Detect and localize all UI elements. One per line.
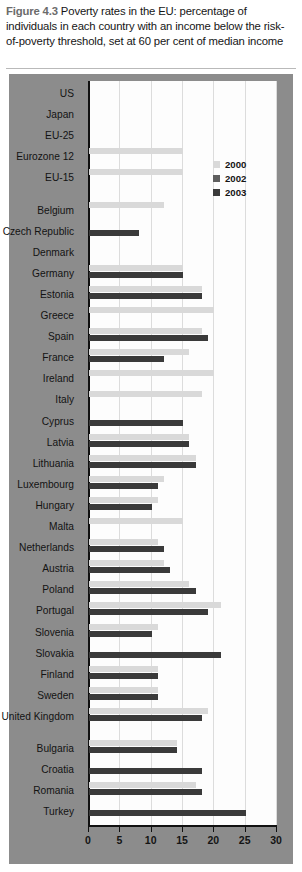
bar-2000	[89, 602, 221, 608]
bar-row: Germany	[9, 264, 293, 285]
legend-swatch-icon	[213, 175, 220, 182]
bar-2003	[89, 567, 170, 573]
bar-2000	[89, 476, 164, 482]
category-label: Sweden	[0, 690, 74, 701]
category-label: Latvia	[0, 437, 74, 448]
bar-row: Netherlands	[9, 538, 293, 559]
bar-2000	[89, 560, 164, 566]
bar-row: Austria	[9, 559, 293, 580]
category-label: Spain	[0, 331, 74, 342]
bar-2000	[89, 328, 202, 334]
category-label: Greece	[0, 310, 74, 321]
bar-row: Czech Republic	[9, 222, 293, 243]
bar-2000	[89, 434, 189, 440]
bar-2000	[89, 740, 177, 746]
bar-2003	[89, 747, 177, 753]
bar-2003	[89, 504, 152, 510]
x-axis-tick	[151, 825, 152, 832]
bar-2000	[89, 307, 214, 313]
bar-row: Bulgaria	[9, 739, 293, 760]
category-label: Poland	[0, 584, 74, 595]
category-label: Czech Republic	[0, 226, 74, 237]
bar-2000	[89, 455, 196, 461]
bar-row: Cyprus	[9, 412, 293, 433]
category-label: EU-15	[0, 172, 74, 183]
bar-row: Lithuania	[9, 454, 293, 475]
bar-2003	[89, 546, 164, 552]
bar-2003	[89, 441, 189, 447]
bar-row: Eurozone 12	[9, 147, 293, 168]
figure-caption: Figure 4.3 Poverty rates in the EU: perc…	[6, 4, 296, 50]
legend-swatch-icon	[213, 189, 220, 196]
bar-row: Poland	[9, 580, 293, 601]
legend-item: 2003	[213, 185, 246, 199]
category-label: Estonia	[0, 289, 74, 300]
bar-2003	[89, 789, 202, 795]
bar-row: Slovenia	[9, 623, 293, 644]
bar-2000	[89, 370, 214, 376]
category-label: Belgium	[0, 205, 74, 216]
category-label: Japan	[0, 109, 74, 120]
x-axis-tick	[276, 825, 277, 832]
category-label: Luxembourg	[0, 479, 74, 490]
category-label: Ireland	[0, 373, 74, 384]
bar-row: Ireland	[9, 369, 293, 390]
bar-2003	[89, 652, 221, 658]
bar-row: United Kingdom	[9, 707, 293, 728]
bar-2000	[89, 265, 183, 271]
bar-row: Croatia	[9, 760, 293, 781]
bar-2003	[89, 694, 158, 700]
x-axis-tick-label: 10	[139, 834, 163, 846]
bar-row: US	[9, 84, 293, 105]
category-label: Netherlands	[0, 542, 74, 553]
legend-item: 2000	[213, 157, 246, 171]
category-label: Italy	[0, 394, 74, 405]
bar-row: Spain	[9, 327, 293, 348]
category-label: Malta	[0, 521, 74, 532]
bar-2003	[89, 462, 196, 468]
bar-row: Greece	[9, 306, 293, 327]
chart-legend: 200020022003	[213, 157, 246, 199]
category-label: Romania	[0, 785, 74, 796]
category-label: EU-25	[0, 130, 74, 141]
category-label: Slovakia	[0, 648, 74, 659]
bar-row: Hungary	[9, 496, 293, 517]
category-label: Eurozone 12	[0, 151, 74, 162]
category-label: US	[0, 88, 74, 99]
bar-row: Italy	[9, 390, 293, 411]
bar-row: France	[9, 348, 293, 369]
bar-row: Denmark	[9, 243, 293, 264]
category-label: Finland	[0, 669, 74, 680]
bar-2003	[89, 768, 202, 774]
x-axis-tick	[88, 825, 89, 832]
bar-2003	[89, 631, 152, 637]
legend-label: 2000	[225, 159, 246, 170]
bar-2000	[89, 539, 158, 545]
legend-label: 2003	[225, 187, 246, 198]
bar-row: EU-15	[9, 168, 293, 189]
bar-2000	[89, 349, 189, 355]
x-axis-tick-label: 15	[170, 834, 194, 846]
bar-2000	[89, 518, 183, 524]
category-label: Slovenia	[0, 627, 74, 638]
bar-2000	[89, 666, 158, 672]
bar-row: Luxembourg	[9, 475, 293, 496]
bar-2000	[89, 169, 183, 175]
bar-2003	[89, 609, 208, 615]
category-label: Hungary	[0, 500, 74, 511]
bar-row: Latvia	[9, 433, 293, 454]
category-label: France	[0, 352, 74, 363]
legend-label: 2002	[225, 173, 246, 184]
category-label: Portugal	[0, 605, 74, 616]
bar-row: EU-25	[9, 126, 293, 147]
category-label: Austria	[0, 563, 74, 574]
bar-2003	[89, 230, 139, 236]
bar-row: Turkey	[9, 802, 293, 823]
x-axis-tick-label: 25	[233, 834, 257, 846]
figure-page: Figure 4.3 Poverty rates in the EU: perc…	[0, 0, 302, 872]
category-label: Lithuania	[0, 458, 74, 469]
bar-2000	[89, 497, 158, 503]
bar-row: Sweden	[9, 686, 293, 707]
bar-row: Portugal	[9, 601, 293, 622]
bar-2000	[89, 782, 196, 788]
